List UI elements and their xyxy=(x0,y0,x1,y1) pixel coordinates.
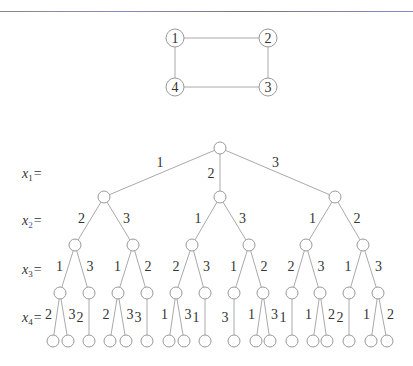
edge-label: 3 xyxy=(185,307,192,322)
tree-leaf-node xyxy=(264,335,276,347)
tree-edge xyxy=(177,299,183,335)
level-label-x4: x4= xyxy=(21,310,42,327)
tree-leaf-node xyxy=(62,335,74,347)
tree-edge xyxy=(379,299,386,335)
edge-label: 2 xyxy=(103,307,110,322)
graph-node-label: 4 xyxy=(172,80,179,95)
tree-node-level2 xyxy=(69,239,81,251)
edge-label: 1 xyxy=(345,259,352,274)
tree-node-level3 xyxy=(343,287,355,299)
tree-node-level3 xyxy=(141,287,153,299)
edge-label: 2 xyxy=(354,211,361,226)
diagram-canvas: 1243 12323131213122312231323223313131311… xyxy=(0,0,413,366)
edge-label: 2 xyxy=(208,166,215,181)
tree-edge xyxy=(111,299,117,335)
tree-edge xyxy=(314,299,319,335)
tree-node-level3 xyxy=(54,287,66,299)
tree-edge xyxy=(120,251,131,288)
edge-label: 1 xyxy=(363,307,370,322)
tree-node-level2 xyxy=(243,239,255,251)
edge-label: 3 xyxy=(203,259,210,274)
tree-node-level1 xyxy=(329,191,341,203)
tree-edge xyxy=(178,251,190,288)
edge-label: 3 xyxy=(222,310,229,325)
edge-label: 1 xyxy=(56,259,63,274)
tree-node-level3 xyxy=(286,287,298,299)
edge-label: 3 xyxy=(318,259,325,274)
edge-label: 3 xyxy=(69,307,76,322)
tree-leaf-node xyxy=(199,335,211,347)
edge-label: 3 xyxy=(87,259,94,274)
tree-leaf-node xyxy=(365,335,377,347)
tree-edge xyxy=(194,251,204,287)
tree-leaf-node xyxy=(381,335,393,347)
tree-leaf-node xyxy=(343,335,355,347)
tree-edge xyxy=(351,251,362,287)
graph-node-label: 1 xyxy=(172,31,179,46)
tree-leaf-node xyxy=(228,335,240,347)
tree-edge xyxy=(61,299,67,335)
edge-label: 2 xyxy=(288,259,295,274)
edge-label: 3 xyxy=(375,259,382,274)
tree-edge xyxy=(236,251,247,288)
edge-label: 3 xyxy=(271,307,278,322)
edge-label: 2 xyxy=(45,307,52,322)
tree-root-node xyxy=(214,142,226,154)
tree-node-level3 xyxy=(112,287,124,299)
edge-label: 1 xyxy=(157,155,164,170)
edge-label: 2 xyxy=(337,310,344,325)
level-label-x2: x2= xyxy=(21,213,42,230)
tree-edge xyxy=(54,299,59,335)
tree-node-level1 xyxy=(98,191,110,203)
tree-node-level2 xyxy=(186,239,198,251)
edge-label: 1 xyxy=(195,211,202,226)
tree-edge xyxy=(372,299,377,335)
tree-edge xyxy=(119,299,125,335)
tree-edge xyxy=(62,251,73,288)
tree-node-level3 xyxy=(372,287,384,299)
edge-label: 3 xyxy=(272,155,279,170)
tree-node-level3 xyxy=(228,287,240,299)
tree-edge xyxy=(294,251,305,287)
tree-node-level3 xyxy=(83,287,95,299)
tree-node-level1 xyxy=(214,191,226,203)
tree-edge xyxy=(321,299,326,335)
tree-leaf-node xyxy=(307,335,319,347)
square-graph: 1243 xyxy=(166,29,277,96)
edge-label: 1 xyxy=(230,259,237,274)
tree-node-level3 xyxy=(199,287,211,299)
tree-leaf-node xyxy=(250,335,262,347)
tree-leaf-node xyxy=(286,335,298,347)
edge-label: 2 xyxy=(145,259,152,274)
tree-edge xyxy=(264,299,269,335)
edge-label: 2 xyxy=(328,307,335,322)
tree-leaf-node xyxy=(104,335,116,347)
edge-label: 2 xyxy=(77,310,84,325)
edge-label: 1 xyxy=(305,307,312,322)
edge-label: 2 xyxy=(78,211,85,226)
tree-leaf-node xyxy=(178,335,190,347)
tree-node-level2 xyxy=(127,239,139,251)
edge-label: 2 xyxy=(261,259,268,274)
tree-leaf-node xyxy=(83,335,95,347)
tree-edge xyxy=(257,299,262,335)
edge-label: 3 xyxy=(239,211,246,226)
edge-label: 1 xyxy=(248,307,255,322)
edge-label: 3 xyxy=(135,310,142,325)
tree-leaf-node xyxy=(120,335,132,347)
tree-node-level3 xyxy=(257,287,269,299)
tree-leaf-node xyxy=(321,335,333,347)
edge-label: 1 xyxy=(280,310,287,325)
edge-label: 3 xyxy=(123,211,130,226)
tree-edge xyxy=(170,299,175,335)
tree-node-level2 xyxy=(300,239,312,251)
edge-label: 2 xyxy=(173,259,180,274)
edge-label: 1 xyxy=(114,259,121,274)
tree-node-level3 xyxy=(170,287,182,299)
level-label-x3: x3= xyxy=(21,262,42,279)
tree-node-level3 xyxy=(314,287,326,299)
level-label-x1: x1= xyxy=(21,166,42,183)
edge-label: 1 xyxy=(309,211,316,226)
edge-label: 2 xyxy=(387,307,394,322)
tree-leaf-node xyxy=(47,335,59,347)
